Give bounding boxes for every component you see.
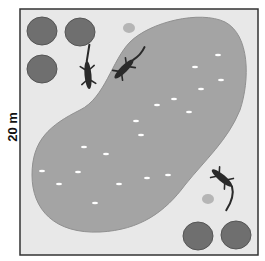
bush	[27, 55, 57, 83]
rock	[123, 23, 135, 33]
bush	[221, 221, 251, 249]
rock	[202, 194, 214, 204]
enclosure-diagram	[0, 0, 265, 261]
bush	[65, 18, 95, 46]
bush	[183, 222, 213, 250]
bush	[27, 17, 57, 45]
